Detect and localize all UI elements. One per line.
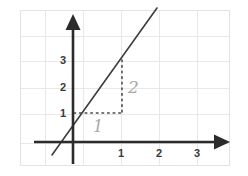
- x-axis-arrow-icon: [214, 135, 230, 150]
- chart-canvas: 3 2 1 1 2 3 1 2: [0, 0, 248, 176]
- x-tick-label-3: 3: [194, 148, 200, 159]
- x-tick-label-1: 1: [118, 148, 124, 159]
- y-axis-arrow-icon: [66, 14, 81, 30]
- y-tick-label-1: 1: [60, 108, 66, 119]
- rise-annotation-label: 2: [128, 79, 139, 96]
- x-tick-label-2: 2: [156, 148, 162, 159]
- run-annotation-label: 1: [93, 119, 103, 135]
- y-tick-label-3: 3: [60, 55, 66, 66]
- y-tick-label-2: 2: [60, 82, 66, 93]
